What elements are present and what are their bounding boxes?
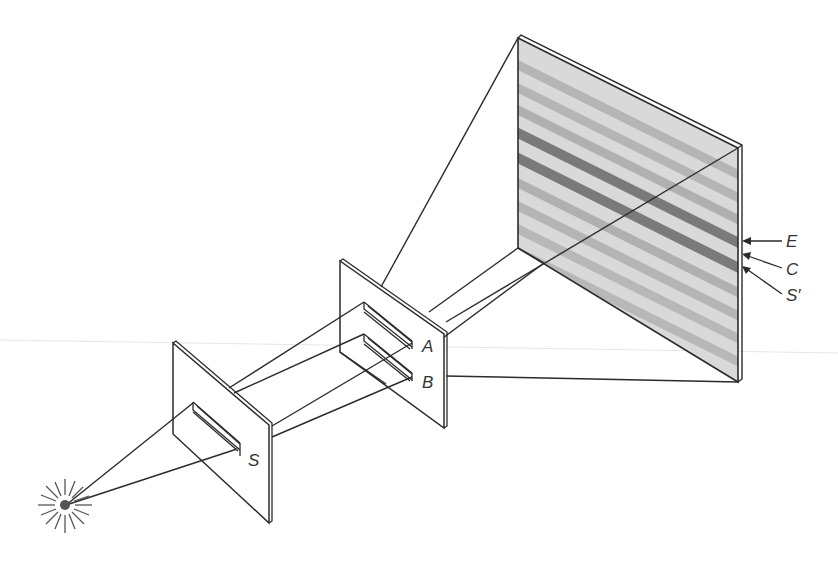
fringe-pointers — [742, 237, 782, 294]
light-source-icon — [38, 479, 92, 533]
arrow-c-icon — [742, 252, 782, 268]
label-a: A — [422, 338, 433, 355]
arrow-e-icon — [742, 237, 782, 245]
label-c: C — [786, 261, 798, 278]
screen — [510, 35, 745, 382]
single-slit-barrier — [173, 341, 272, 523]
diagram-canvas: S A B E C S′ — [0, 0, 838, 567]
arrow-s-prime-icon — [742, 266, 782, 294]
label-e: E — [786, 233, 797, 250]
label-b: B — [422, 374, 433, 391]
label-s-prime: S′ — [786, 287, 801, 304]
label-s: S — [248, 452, 259, 469]
